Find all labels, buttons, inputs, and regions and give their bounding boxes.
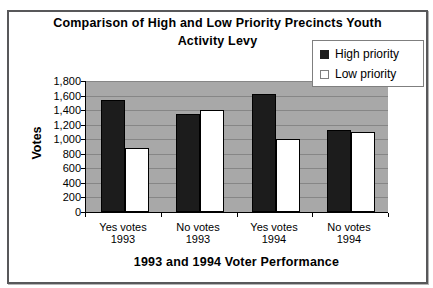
x-tick-mark: [161, 213, 162, 217]
x-tick-mark: [237, 213, 238, 217]
high-priority-swatch-icon: [320, 50, 329, 59]
screenshot-canvas: { "chart_data": { "type": "bar", "title"…: [0, 0, 433, 288]
y-tick-label: 1,600: [37, 90, 81, 102]
gridline: [86, 125, 388, 126]
x-axis-title: 1993 and 1994 Voter Performance: [85, 255, 388, 269]
gridline: [86, 110, 388, 111]
low-priority-swatch-icon: [320, 70, 329, 79]
x-tick-mark: [388, 213, 389, 217]
bar-high-priority: [176, 114, 200, 212]
y-tick-mark: [81, 183, 85, 184]
y-tick-mark: [81, 154, 85, 155]
legend-item-low-priority: Low priority: [320, 64, 416, 84]
y-tick-label: 1,800: [37, 75, 81, 87]
x-category-label-line: 1994: [304, 233, 394, 245]
y-tick-mark: [81, 139, 85, 140]
x-category-label-line: No votes: [304, 221, 394, 233]
y-tick-mark: [81, 96, 85, 97]
y-tick-mark: [81, 81, 85, 82]
legend-item-high-priority: High priority: [320, 44, 416, 64]
bar-low-priority: [276, 139, 300, 212]
gridline: [86, 96, 388, 97]
legend-label-low-priority: Low priority: [335, 67, 396, 81]
bar-low-priority: [200, 110, 224, 212]
bar-high-priority: [252, 94, 276, 212]
y-tick-mark: [81, 125, 85, 126]
y-tick-mark: [81, 110, 85, 111]
y-tick-label: 1,200: [37, 119, 81, 131]
y-tick-mark: [81, 197, 85, 198]
y-tick-label: 600: [37, 162, 81, 174]
legend: High priority Low priority: [312, 40, 424, 87]
bar-high-priority: [327, 130, 351, 212]
y-tick-label: 1,000: [37, 133, 81, 145]
x-tick-mark: [85, 213, 86, 217]
bar-low-priority: [125, 148, 149, 212]
y-tick-label: 0: [37, 206, 81, 218]
y-tick-mark: [81, 168, 85, 169]
plot-area: [85, 81, 388, 213]
y-tick-label: 800: [37, 148, 81, 160]
bar-low-priority: [351, 132, 375, 212]
legend-label-high-priority: High priority: [335, 47, 399, 61]
y-tick-label: 1,400: [37, 104, 81, 116]
bar-high-priority: [101, 100, 125, 212]
x-category-label: No votes1994: [304, 221, 394, 245]
chart-title-line-1: Comparison of High and Low Priority Prec…: [9, 14, 426, 32]
y-tick-label: 200: [37, 191, 81, 203]
x-tick-mark: [312, 213, 313, 217]
y-tick-label: 400: [37, 177, 81, 189]
chart-frame: Comparison of High and Low Priority Prec…: [7, 10, 428, 284]
